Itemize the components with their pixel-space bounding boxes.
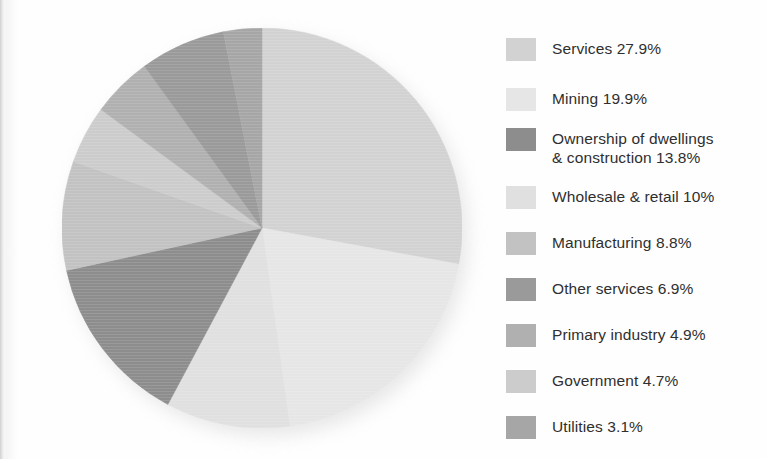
legend-item-label: Manufacturing 8.8% xyxy=(552,232,692,252)
legend-item[interactable]: Government 4.7% xyxy=(506,370,678,393)
legend-item-label: Other services 6.9% xyxy=(552,278,693,298)
scan-edge-fade xyxy=(5,0,19,459)
legend-item[interactable]: Ownership of dwellings & construction 13… xyxy=(506,128,714,167)
pie-chart xyxy=(62,28,462,428)
legend-item[interactable]: Utilities 3.1% xyxy=(506,416,643,439)
legend-swatch xyxy=(506,38,536,61)
legend-swatch xyxy=(506,128,536,151)
legend-item-label: Mining 19.9% xyxy=(552,88,647,108)
legend-item-label: Government 4.7% xyxy=(552,370,678,390)
legend-item-label: Wholesale & retail 10% xyxy=(552,186,714,206)
legend-swatch xyxy=(506,88,536,111)
legend-item[interactable]: Wholesale & retail 10% xyxy=(506,186,714,209)
pie-slice[interactable] xyxy=(262,28,462,264)
legend-swatch xyxy=(506,278,536,301)
legend-swatch xyxy=(506,416,536,439)
legend-item-label: Services 27.9% xyxy=(552,38,661,58)
chart-page: Services 27.9%Mining 19.9%Ownership of d… xyxy=(0,0,767,459)
pie-slice-group xyxy=(62,28,462,428)
legend-swatch xyxy=(506,370,536,393)
legend-item[interactable]: Mining 19.9% xyxy=(506,88,647,111)
legend-item-label: Ownership of dwellings & construction 13… xyxy=(552,128,714,167)
legend-item[interactable]: Services 27.9% xyxy=(506,38,661,61)
legend-item[interactable]: Manufacturing 8.8% xyxy=(506,232,692,255)
legend-item-label: Utilities 3.1% xyxy=(552,416,643,436)
legend-item-label: Primary industry 4.9% xyxy=(552,324,706,344)
legend-swatch xyxy=(506,186,536,209)
legend-item[interactable]: Primary industry 4.9% xyxy=(506,324,706,347)
pie-chart-svg xyxy=(62,28,462,428)
legend-item[interactable]: Other services 6.9% xyxy=(506,278,693,301)
legend-swatch xyxy=(506,232,536,255)
legend-swatch xyxy=(506,324,536,347)
